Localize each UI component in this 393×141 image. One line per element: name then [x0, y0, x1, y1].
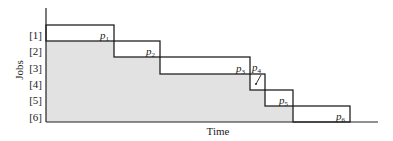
job-label-2: [2]: [29, 45, 42, 57]
processing-time-label-5: p5: [278, 94, 289, 108]
job-label-1: [1]: [29, 29, 42, 41]
job-label-3: [3]: [29, 62, 42, 74]
p4-pointer-arrow: [256, 75, 261, 84]
job-label-5: [5]: [29, 94, 42, 106]
y-axis-label: Jobs: [13, 60, 25, 80]
processing-time-label-1: p1: [99, 29, 110, 43]
job-schedule-diagram: [1][2][3][4][5][6] p1p2p3p4p5p6 Jobs Tim…: [0, 0, 393, 141]
processing-time-label-4: p4: [251, 61, 262, 75]
waiting-time-shaded-area: [46, 41, 293, 122]
job-label-4: [4]: [29, 78, 42, 90]
processing-time-label-2: p2: [145, 45, 156, 59]
x-axis-label: Time: [207, 125, 230, 137]
processing-time-label-6: p6: [335, 110, 346, 124]
processing-time-label-3: p3: [235, 62, 246, 76]
job-label-6: [6]: [29, 111, 42, 123]
